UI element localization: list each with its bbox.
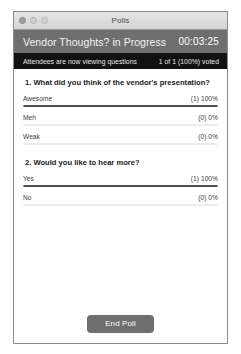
poll-timer: 00:03:25 [178,36,219,47]
option-result: (1) 100% [191,95,218,102]
question-block: 2. Would you like to hear more? Yes (1) … [23,158,218,206]
poll-status-bar: Attendees are now viewing questions 1 of… [14,53,227,69]
window-titlebar[interactable]: Polls [14,12,227,30]
option-result: (0) 0% [198,114,218,121]
option-result: (0) 0% [198,133,218,140]
poll-results-list: 1. What did you think of the vendor's pr… [14,69,227,305]
question-text: 2. Would you like to hear more? [25,158,218,167]
option-bar-track [23,143,218,145]
traffic-light-group [19,12,48,29]
option-bar-track [23,124,218,126]
question-block: 1. What did you think of the vendor's pr… [23,78,218,145]
minimize-icon[interactable] [30,17,37,24]
option-label: Weak [23,133,40,140]
option-row: No (0) 0% [23,194,218,206]
status-message: Attendees are now viewing questions [23,58,137,65]
option-line: Meh (0) 0% [23,114,218,121]
option-bar-fill [23,105,218,107]
option-row: Meh (0) 0% [23,114,218,126]
option-bar-track [23,204,218,206]
screen: Polls Vendor Thoughts? in Progress 00:03… [0,0,241,354]
option-label: Meh [23,114,36,121]
option-result: (1) 100% [191,175,218,182]
option-row: Awesome (1) 100% [23,95,218,107]
poll-title: Vendor Thoughts? in Progress [23,36,166,48]
option-row: Weak (0) 0% [23,133,218,145]
option-bar-fill [23,185,218,187]
zoom-icon[interactable] [41,17,48,24]
close-icon[interactable] [19,17,26,24]
question-text: 1. What did you think of the vendor's pr… [25,78,218,87]
option-result: (0) 0% [198,194,218,201]
option-row: Yes (1) 100% [23,175,218,187]
option-label: Yes [23,175,34,182]
vote-count: 1 of 1 (100%) voted [159,58,219,65]
option-label: Awesome [23,95,52,102]
poll-header: Vendor Thoughts? in Progress 00:03:25 [14,30,227,53]
option-line: Awesome (1) 100% [23,95,218,102]
option-bar-track [23,185,218,187]
option-label: No [23,194,32,201]
option-line: No (0) 0% [23,194,218,201]
end-poll-button[interactable]: End Poll [87,315,154,333]
poll-footer: End Poll [14,305,227,343]
option-line: Yes (1) 100% [23,175,218,182]
polls-window: Polls Vendor Thoughts? in Progress 00:03… [13,11,228,344]
option-line: Weak (0) 0% [23,133,218,140]
window-title: Polls [112,17,130,25]
option-bar-track [23,105,218,107]
